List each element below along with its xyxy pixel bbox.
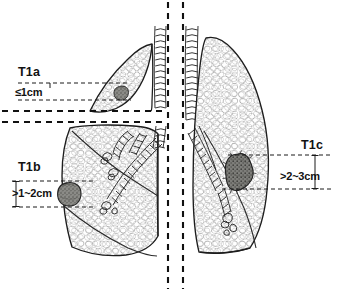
tumor-t1b: [58, 183, 81, 206]
tumor-t1a: [114, 86, 128, 100]
stage-label-t1b: T1b: [18, 161, 41, 174]
stage-label-t1c: T1c: [301, 139, 323, 152]
size-label-t1b: >1~2cm: [12, 188, 52, 199]
stage-label-t1a: T1a: [18, 66, 40, 79]
diagram-canvas: [0, 0, 340, 291]
lung-t1-staging-figure: T1a ≤1cm T1b >1~2cm T1c >2~3cm: [0, 0, 340, 291]
trachea-left: [154, 26, 166, 108]
size-label-t1a: ≤1cm: [15, 87, 42, 98]
size-label-t1c: >2~3cm: [280, 171, 320, 182]
